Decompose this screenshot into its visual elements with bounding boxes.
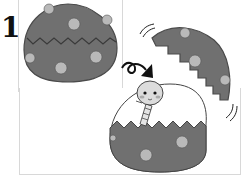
whole-egg-icon xyxy=(24,4,117,82)
illustration xyxy=(0,0,244,175)
curly-arrow-icon xyxy=(122,63,153,78)
